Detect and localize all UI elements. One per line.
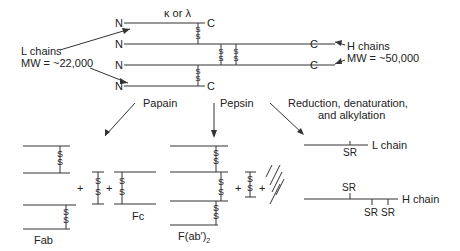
disulfide-bond: SS xyxy=(95,176,101,198)
fc-label: Fc xyxy=(132,210,144,222)
c-terminus-label: C xyxy=(310,38,318,50)
reduction-label-2: and alkylation xyxy=(318,109,385,121)
fab2-label: F(ab′)2 xyxy=(178,230,210,247)
l-chains-mw: MW = ~22,000 xyxy=(21,57,93,69)
plus-sign: + xyxy=(235,182,241,194)
sr-label: SR xyxy=(364,207,378,219)
h-chains-mw: MW = ~50,000 xyxy=(347,52,419,64)
l-chains-label: L chains xyxy=(21,45,62,57)
disulfide-bond: SS xyxy=(247,175,253,193)
sr-label: SR xyxy=(342,182,356,194)
disulfide-bond: SS xyxy=(195,68,201,82)
disulfide-bond: SS xyxy=(233,48,239,62)
n-terminus-label: N xyxy=(115,80,123,92)
n-terminus-label: N xyxy=(115,38,123,50)
sr-label: SR xyxy=(381,207,395,219)
disulfide-bond: SS xyxy=(213,149,219,165)
disulfide-bond: SS xyxy=(218,48,224,62)
reduction-label: Reduction, denaturation, xyxy=(288,97,408,109)
papain-label: Papain xyxy=(143,97,177,109)
kappa-lambda-label: κ or λ xyxy=(164,7,191,19)
disulfide-bond: SS xyxy=(57,150,63,166)
h-chains-label: H chains xyxy=(347,40,390,52)
plus-sign: + xyxy=(106,182,112,194)
disulfide-bond: SS xyxy=(195,26,201,40)
plus-sign: + xyxy=(77,182,83,194)
disulfide-bond: SS xyxy=(119,176,125,198)
n-terminus-label: N xyxy=(115,17,123,29)
c-terminus-label: C xyxy=(310,59,318,71)
disulfide-bond: SS xyxy=(218,177,224,197)
l-chain-label: L chain xyxy=(372,139,407,151)
h-chain-label: H chain xyxy=(402,193,439,205)
pepsin-label: Pepsin xyxy=(220,97,254,109)
n-terminus-label: N xyxy=(115,59,123,71)
fab-label: Fab xyxy=(34,234,53,246)
disulfide-bond: SS xyxy=(213,204,219,220)
c-terminus-label: C xyxy=(207,17,215,29)
c-terminus-label: C xyxy=(207,80,215,92)
sr-label: SR xyxy=(343,147,357,159)
plus-sign: + xyxy=(259,182,265,194)
disulfide-bond: SS xyxy=(63,208,69,224)
